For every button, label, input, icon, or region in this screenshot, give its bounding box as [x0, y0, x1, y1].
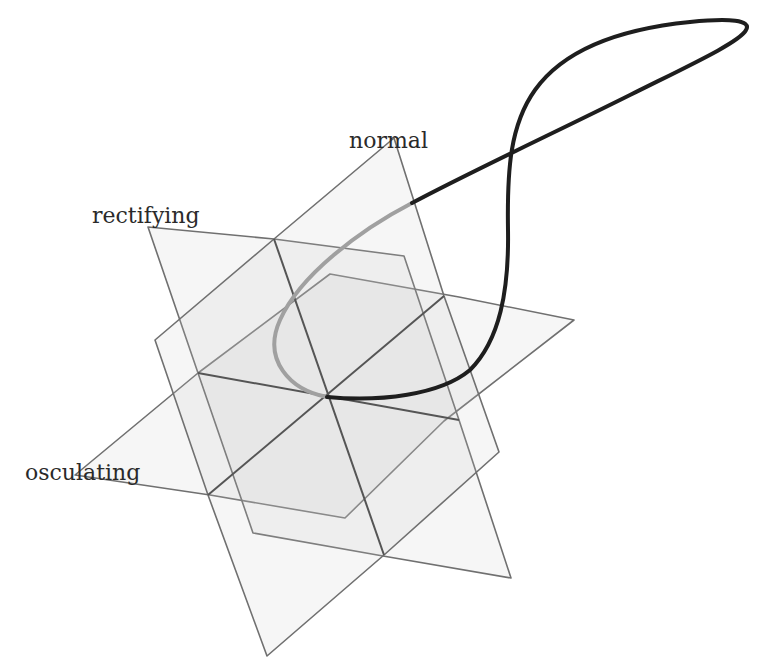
- label-rectifying: rectifying: [92, 203, 200, 228]
- frenet-planes-diagram: normal rectifying osculating: [0, 0, 765, 672]
- label-normal: normal: [349, 128, 428, 153]
- label-osculating: osculating: [25, 460, 140, 485]
